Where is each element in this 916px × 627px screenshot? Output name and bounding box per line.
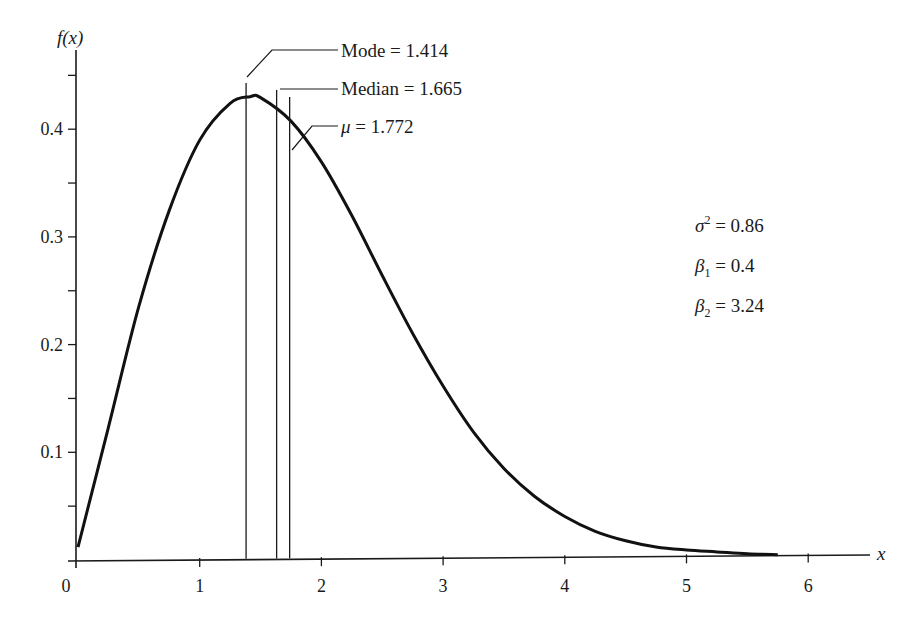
y-axis-ticks: 0.10.20.30.4 [41, 75, 77, 506]
y-tick-label: 0.2 [41, 335, 64, 355]
density-curve [78, 95, 778, 554]
marker-lines [246, 83, 290, 559]
x-tick-label: 3 [439, 576, 448, 596]
mode-leader-line [247, 50, 338, 77]
variance-annotation: σ2 = 0.86 [695, 213, 764, 236]
x-axis [68, 555, 870, 561]
x-tick-label: 1 [195, 576, 204, 596]
y-tick-label: 0.3 [41, 227, 64, 247]
x-tick-label: 0 [62, 576, 71, 596]
distribution-chart: 0.10.20.30.4 0123456 f(x) x Mode = 1.414… [0, 0, 916, 627]
y-tick-label: 0.4 [41, 119, 64, 139]
y-axis-label: f(x) [57, 27, 83, 49]
x-tick-label: 6 [804, 576, 813, 596]
x-axis-label: x [876, 543, 886, 564]
mean-label: μ = 1.772 [340, 116, 414, 137]
mode-label: Mode = 1.414 [341, 40, 449, 61]
median-label: Median = 1.665 [341, 78, 462, 99]
x-tick-label: 5 [682, 576, 691, 596]
x-tick-label: 4 [560, 576, 569, 596]
beta1-annotation: β1 = 0.4 [694, 255, 755, 280]
x-tick-label: 2 [317, 576, 326, 596]
y-tick-label: 0.1 [41, 442, 64, 462]
beta2-annotation: β2 = 3.24 [694, 295, 764, 320]
